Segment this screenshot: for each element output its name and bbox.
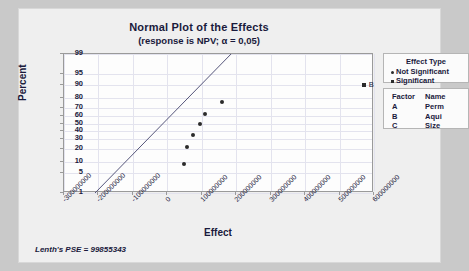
- circle-marker-icon: [388, 67, 396, 76]
- y-axis-tick-mark: [60, 148, 63, 149]
- y-axis-tick-label: 90: [61, 80, 83, 88]
- y-axis-tick-label: 95: [61, 69, 83, 77]
- data-point: [182, 162, 186, 166]
- x-axis-tick-label: 0: [164, 195, 172, 203]
- chart-figure: Normal Plot of the Effects (response is …: [18, 8, 441, 263]
- legend-factor-header-factor: Factor: [388, 92, 425, 102]
- legend-factor-row: BAqui: [388, 112, 464, 122]
- data-point-label: B: [369, 80, 374, 89]
- x-axis-title: Effect: [63, 227, 373, 238]
- y-axis-tick-label: 40: [61, 126, 83, 134]
- y-axis-tick-mark: [60, 107, 63, 108]
- y-axis-tick-mark: [60, 73, 63, 74]
- legend-factor-row: CSize: [388, 121, 464, 131]
- chart-subtitle: (response is NPV; α = 0,05): [19, 35, 379, 46]
- x-axis-tick-label: 600000000: [371, 173, 401, 203]
- legend-effect-type-title: Effect Type: [388, 57, 464, 66]
- legend-effect-type: Effect Type Not SignificantSignificant: [383, 53, 469, 83]
- legend-item: Significant: [388, 76, 464, 85]
- data-point: [198, 122, 202, 126]
- fitted-line: [64, 54, 374, 193]
- y-axis-tick-mark: [60, 53, 63, 54]
- y-axis-tick-mark: [60, 130, 63, 131]
- y-axis-tick-label: 20: [61, 144, 83, 152]
- y-axis-tick-mark: [60, 172, 63, 173]
- legend-factor-name: Size: [425, 121, 464, 131]
- legend-factor-code: A: [388, 102, 425, 112]
- y-axis-tick-label: 70: [61, 103, 83, 111]
- legend-item-label: Not Significant: [396, 67, 449, 76]
- y-axis-tick-mark: [60, 97, 63, 98]
- legend-item-label: Significant: [396, 76, 434, 85]
- square-marker-icon: [388, 76, 396, 85]
- legend-factor-code: B: [388, 112, 425, 122]
- y-axis-tick-label: 50: [61, 119, 83, 127]
- data-point: [203, 112, 207, 116]
- y-axis-tick-mark: [60, 84, 63, 85]
- y-axis-tick-mark: [60, 123, 63, 124]
- gridline-vertical: [374, 54, 375, 191]
- y-axis-tick-label: 99: [61, 49, 83, 57]
- legend-item: Not Significant: [388, 67, 464, 76]
- legend-factor-header: Factor Name: [388, 92, 464, 102]
- page-title: Normal Plot of the Effects: [19, 21, 379, 33]
- legend-factor-table: Factor Name APermBAquiCSize: [383, 88, 469, 129]
- gridline-horizontal: [64, 193, 372, 194]
- y-axis-tick-mark: [60, 115, 63, 116]
- legend-factor-header-name: Name: [425, 92, 464, 102]
- data-point: [185, 145, 189, 149]
- plot-area: B: [63, 53, 373, 192]
- legend-factor-name: Aqui: [425, 112, 464, 122]
- y-axis-tick-mark: [60, 138, 63, 139]
- legend-factor-row: APerm: [388, 102, 464, 112]
- y-axis-tick-label: 30: [61, 134, 83, 142]
- y-axis-tick-label: 80: [61, 93, 83, 101]
- legend-effect-type-items: Not SignificantSignificant: [388, 67, 464, 86]
- data-point: [362, 83, 366, 87]
- legend-factor-rows: APermBAquiCSize: [388, 102, 464, 131]
- legend-factor-code: C: [388, 121, 425, 131]
- y-axis-tick-label: 10: [61, 157, 83, 165]
- y-axis-title: Percent: [17, 64, 28, 101]
- y-axis-tick-label: 60: [61, 111, 83, 119]
- footnote-lenths-pse: Lenth's PSE = 99855343: [35, 245, 126, 254]
- y-axis-tick-mark: [60, 161, 63, 162]
- chart-title-block: Normal Plot of the Effects (response is …: [19, 21, 379, 46]
- legend-factor-name: Perm: [425, 102, 464, 112]
- y-axis-tick-label: 5: [61, 168, 83, 176]
